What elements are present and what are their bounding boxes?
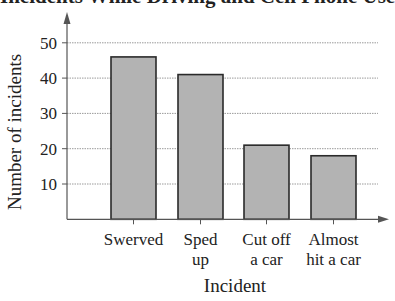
y-axis-label: Number of incidents: [4, 54, 25, 210]
x-tick-label: Swerved: [104, 230, 164, 249]
x-tick-label: Cut off: [242, 230, 291, 249]
bar-cut-off-a-car: [244, 145, 289, 219]
x-tick-label: a car: [250, 250, 283, 269]
bar-sped-up: [178, 75, 223, 220]
x-tick-label: up: [192, 250, 209, 269]
y-tick-label: 10: [40, 175, 57, 194]
bars: [111, 57, 356, 219]
x-axis-label: Incident: [204, 275, 267, 296]
bar-almost-hit-a-car: [311, 156, 356, 220]
x-tick-label: Sped: [184, 230, 219, 249]
y-tick-label: 50: [40, 34, 57, 53]
y-axis-ticks: 1020304050: [40, 34, 67, 194]
x-axis-ticks: SwervedSpedupCut offa carAlmosthit a car: [104, 219, 361, 269]
y-tick-label: 40: [40, 69, 57, 88]
x-axis-arrow-icon: [378, 216, 389, 223]
y-axis-arrow-icon: [64, 12, 71, 24]
bar-swerved: [111, 57, 156, 219]
y-tick-label: 30: [40, 104, 57, 123]
x-tick-label: hit a car: [306, 250, 361, 269]
y-tick-label: 20: [40, 140, 57, 159]
x-tick-label: Almost: [308, 230, 358, 249]
